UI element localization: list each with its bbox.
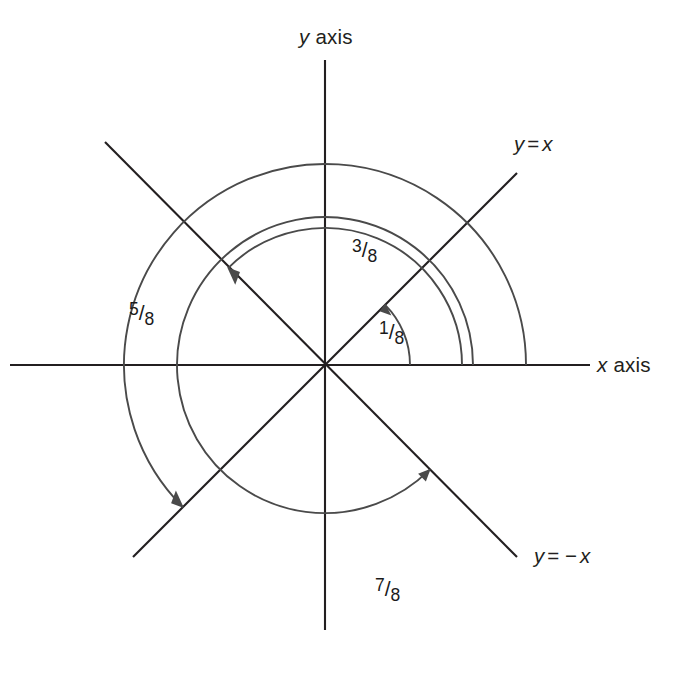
line-y-equals-minus-x [105,142,517,557]
rotation-diagram: yaxis xaxis y=x y= −x 1/8 3/8 5/8 7/8 [0,0,690,675]
arc-five-eighths-arrowhead [171,491,184,509]
y-equals-minus-x-rhs: x [580,544,590,567]
arc-label-seven-eighths-slash: / [385,577,391,600]
arc-label-five-eighths: 5/8 [129,302,154,324]
y-equals-x-lhs: y [514,132,524,155]
arc-label-three-eighths-denominator: 8 [368,246,378,266]
y-equals-minus-x-lhs: y [534,544,544,567]
arc-three-eighths-arrowhead [227,267,240,285]
arc-label-seven-eighths-numerator: 7 [375,575,385,595]
y-equals-minus-x-operator: = − [544,544,580,567]
arc-label-one-eighth-numerator: 1 [379,318,389,338]
arc-label-one-eighth: 1/8 [379,321,404,343]
x-axis-label-variable: x [597,353,613,376]
y-axis-label-variable: y [299,25,315,48]
line-label-y-equals-minus-x: y= −x [534,546,590,567]
arc-label-three-eighths-slash: / [362,238,368,261]
arc-label-five-eighths-denominator: 8 [145,309,155,329]
x-axis-label: xaxis [597,355,651,376]
arc-label-seven-eighths-denominator: 8 [391,585,401,605]
arc-label-five-eighths-numerator: 5 [129,299,139,319]
arc-label-five-eighths-slash: / [139,301,145,324]
arc-label-one-eighth-slash: / [389,320,395,343]
y-equals-x-operator: = [524,132,542,155]
diagram-canvas [0,0,690,675]
y-axis-label: yaxis [299,27,353,48]
y-equals-x-rhs: x [542,132,552,155]
diagonals-group [105,142,517,557]
arc-label-one-eighth-denominator: 8 [395,328,405,348]
x-axis-label-word: axis [613,353,650,376]
arc-label-seven-eighths: 7/8 [375,578,400,600]
arc-label-three-eighths: 3/8 [352,239,377,261]
arc-label-three-eighths-numerator: 3 [352,236,362,256]
y-axis-label-word: axis [315,25,352,48]
line-label-y-equals-x: y=x [514,134,552,155]
axes-group [10,60,590,630]
